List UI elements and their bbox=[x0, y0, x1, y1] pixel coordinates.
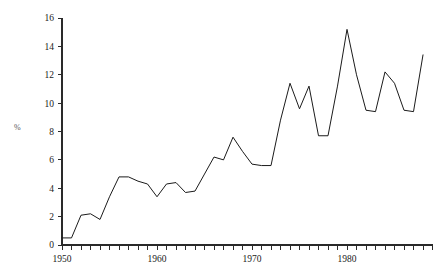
y-tick-label: 2 bbox=[49, 212, 54, 222]
x-tick-label: 1950 bbox=[53, 254, 72, 264]
x-axis-tick-labels: 1950196019701980 bbox=[53, 254, 357, 264]
x-tick-label: 1970 bbox=[243, 254, 262, 264]
x-axis-ticks bbox=[62, 245, 433, 250]
x-tick-label: 1960 bbox=[148, 254, 167, 264]
y-tick-label: 12 bbox=[45, 70, 55, 80]
chart-svg: 0246810121416 1950196019701980 % bbox=[0, 0, 444, 274]
y-tick-label: 16 bbox=[45, 13, 55, 23]
y-tick-label: 14 bbox=[45, 42, 55, 52]
y-tick-label: 10 bbox=[45, 99, 55, 109]
y-axis-tick-labels: 0246810121416 bbox=[45, 13, 55, 250]
y-tick-label: 8 bbox=[49, 127, 54, 137]
y-tick-label: 4 bbox=[49, 184, 54, 194]
data-series-line bbox=[62, 29, 423, 238]
line-chart: 0246810121416 1950196019701980 % bbox=[0, 0, 444, 274]
y-tick-label: 0 bbox=[49, 240, 54, 250]
y-axis-title: % bbox=[14, 123, 21, 132]
y-axis-ticks bbox=[58, 18, 63, 245]
y-tick-label: 6 bbox=[49, 155, 54, 165]
x-tick-label: 1980 bbox=[338, 254, 357, 264]
